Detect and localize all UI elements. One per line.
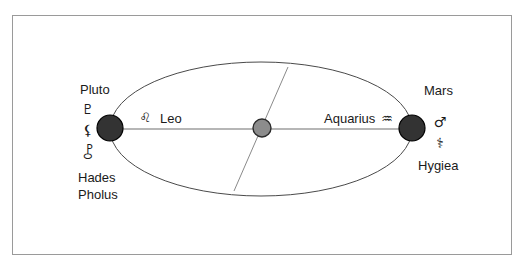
mars-glyph-icon: ♂ [434, 114, 447, 130]
left-body-name-label: Pluto [80, 82, 110, 97]
leo-glyph-icon: ♌ [139, 110, 151, 125]
diagram-canvas: Pluto ♇ ⚸ ⯛ Hades Pholus ♌ Leo Mars ♂ ⚕ … [0, 0, 527, 270]
right-body-circle-mars [399, 115, 425, 141]
hades-glyph-icon: ⚸ [83, 122, 93, 138]
hades-name-label: Hades [78, 170, 116, 185]
leo-sign-label: Leo [160, 111, 182, 126]
hygiea-glyph-icon: ⚕ [436, 135, 444, 151]
center-node-circle [253, 119, 271, 137]
hygiea-name-label: Hygiea [418, 158, 459, 173]
pholus-glyph-icon: ⯛ [83, 144, 93, 160]
pholus-name-label: Pholus [78, 187, 118, 202]
aquarius-sign-label: Aquarius [324, 111, 376, 126]
astrology-orbit-diagram: Pluto ♇ ⚸ ⯛ Hades Pholus ♌ Leo Mars ♂ ⚕ … [0, 0, 527, 270]
left-body-circle-pluto [97, 115, 123, 141]
pluto-glyph-icon: ♇ [82, 101, 95, 117]
right-body-name-label: Mars [424, 83, 453, 98]
aquarius-glyph-icon: ♒ [381, 111, 393, 126]
